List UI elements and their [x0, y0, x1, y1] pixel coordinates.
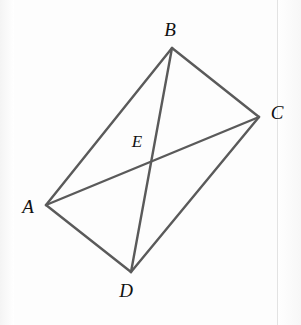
segment-DA: [46, 205, 131, 272]
segment-CD: [131, 117, 259, 272]
point-label-B: B: [164, 20, 176, 39]
edge-group: [46, 48, 259, 272]
point-label-C: C: [271, 103, 284, 122]
segment-AB: [46, 48, 172, 205]
segment-BC: [172, 48, 259, 117]
point-label-E: E: [132, 133, 142, 150]
point-label-A: A: [22, 197, 34, 216]
geometry-diagram: [0, 0, 301, 325]
segment-BD: [131, 48, 172, 272]
figure-canvas: ABCDE: [0, 0, 301, 325]
point-label-D: D: [119, 281, 133, 300]
